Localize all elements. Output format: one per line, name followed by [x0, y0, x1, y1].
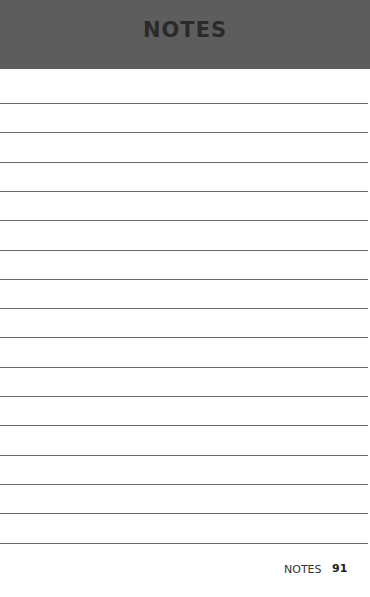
ruled-line	[0, 337, 368, 338]
ruled-line	[0, 162, 368, 163]
ruled-line	[0, 543, 368, 544]
ruled-line	[0, 484, 368, 485]
ruled-line	[0, 279, 368, 280]
ruled-line	[0, 455, 368, 456]
ruled-line	[0, 308, 368, 309]
ruled-line	[0, 367, 368, 368]
ruled-line	[0, 425, 368, 426]
ruled-line	[0, 132, 368, 133]
ruled-line	[0, 220, 368, 221]
page-number: 91	[332, 562, 347, 575]
ruled-line	[0, 396, 368, 397]
ruled-line	[0, 191, 368, 192]
footer-section-label: NOTES	[284, 563, 322, 576]
ruled-line	[0, 513, 368, 514]
ruled-line	[0, 250, 368, 251]
ruled-line	[0, 103, 368, 104]
ruled-lines	[0, 0, 370, 597]
